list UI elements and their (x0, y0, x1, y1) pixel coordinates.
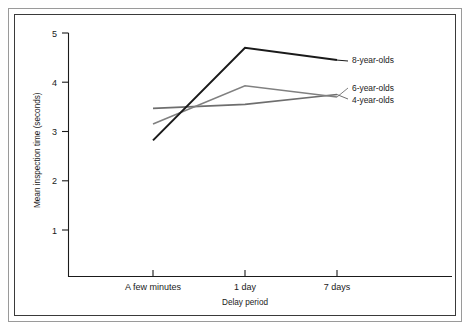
y-axis-title: Mean inspection time (seconds) (33, 92, 42, 208)
y-tick-label-2: 2 (52, 176, 57, 186)
y-axis-ticks (62, 33, 69, 230)
y-tick-label-5: 5 (52, 29, 57, 39)
leader-line-8-year-olds (337, 60, 348, 61)
line-chart: 5 4 3 2 1 Mean inspection time (seconds)… (0, 0, 472, 333)
x-tick-label-7-days: 7 days (324, 282, 351, 292)
legend-label-4-year-olds: 4-year-olds (352, 95, 394, 105)
figure-root: 5 4 3 2 1 Mean inspection time (seconds)… (0, 0, 472, 333)
leader-line-4-year-olds (337, 95, 348, 99)
legend-label-6-year-olds: 6-year-olds (352, 83, 394, 93)
x-axis-title: Delay period (222, 298, 268, 307)
series-line-4-year-olds (153, 95, 337, 109)
y-tick-label-1: 1 (52, 226, 57, 236)
x-tick-label-a-few-minutes: A few minutes (125, 282, 182, 292)
y-tick-label-4: 4 (52, 78, 57, 88)
x-axis-ticks (153, 270, 337, 277)
x-tick-label-1-day: 1 day (234, 282, 257, 292)
y-tick-label-3: 3 (52, 127, 57, 137)
legend-label-8-year-olds: 8-year-olds (352, 55, 394, 65)
